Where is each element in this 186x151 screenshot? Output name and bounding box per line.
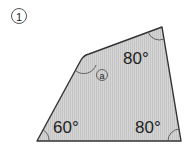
problem-number-badge: 1 [12, 9, 27, 24]
quadrilateral-diagram: 1 a 80° 80° 60° [0, 0, 186, 151]
problem-number: 1 [16, 11, 22, 23]
angle-label-bottom-left: 60° [53, 118, 79, 137]
angle-label-top-right: 80° [123, 49, 149, 68]
unknown-angle-label: a [99, 71, 104, 81]
angle-label-bottom-right: 80° [135, 118, 161, 137]
